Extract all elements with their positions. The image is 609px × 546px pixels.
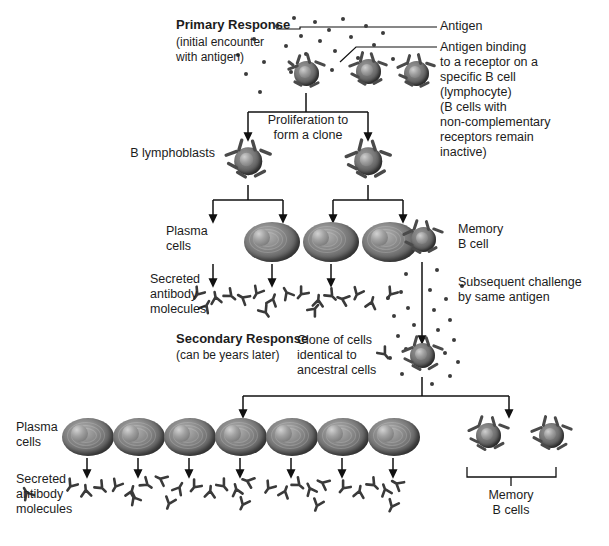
secondary-response-title: Secondary Response [176, 332, 308, 346]
secondary-response-subtitle: (can be years later) [176, 349, 279, 363]
antibodies-primary [190, 286, 378, 320]
primary-response-subtitle: (initial encounter with antigen) [176, 35, 264, 64]
plasma-cells-label-primary: Plasma cells [166, 224, 208, 254]
diagram-canvas: Primary Response (initial encounter with… [0, 0, 609, 546]
clone-of-cells-label: Clone of cells identical to ancestral ce… [297, 333, 376, 378]
memory-b-cell-label: Memory B cell [458, 222, 503, 252]
primary-response-title: Primary Response [176, 18, 290, 32]
antibodies-secondary [63, 472, 404, 513]
antigen-label: Antigen [440, 20, 482, 34]
plasma-cells-label-secondary: Plasma cells [16, 420, 58, 450]
antibodies-stray [20, 287, 398, 500]
b-lymphoblasts-label: B lymphoblasts [95, 147, 215, 161]
secreted-antibody-label-secondary: Secreted antibody molecules [16, 472, 72, 517]
antigen-binding-label: Antigen binding to a receptor on a speci… [440, 40, 550, 160]
proliferation-label: Proliferation to form a clone [253, 113, 363, 142]
memory-b-cells-label: Memory B cells [456, 488, 566, 518]
subsequent-challenge-label: Subsequent challenge by same antigen [458, 275, 582, 305]
secreted-antibody-label-primary: Secreted antibody molecules [150, 272, 206, 317]
